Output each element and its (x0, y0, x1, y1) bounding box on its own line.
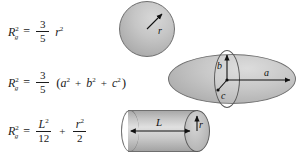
exponent-2: 2 (66, 76, 70, 84)
fraction-denominator: 12 (36, 132, 51, 144)
fraction-L-squared-over-12: L2 12 (36, 118, 51, 144)
exponent-2: 2 (117, 76, 121, 84)
term-c-squared: c2 (112, 77, 121, 89)
fraction-denominator: 2 (75, 132, 85, 144)
exponent-2: 2 (15, 25, 19, 33)
exponent-2: 2 (45, 117, 49, 125)
fraction-three-fifths: 3 5 (36, 19, 49, 44)
exponent-2: 2 (80, 117, 84, 125)
cylinder-dimension-annotation (120, 108, 212, 154)
formula-ellipsoid: R2g = 3 5 ( a2 + b2 + c2 ) (8, 70, 126, 95)
exponent-2: 2 (15, 76, 19, 84)
cylinder-label-r: r (199, 120, 203, 130)
ellipsoid-axes-annotation (168, 50, 298, 108)
plus-sign: + (59, 125, 65, 137)
ellipsoid-label-c: c (221, 91, 225, 101)
formula-cylinder: R2g = L2 12 + r2 2 (8, 118, 89, 144)
equals-sign: = (23, 124, 30, 139)
term-r-squared: r2 (55, 26, 63, 38)
equals-sign: = (23, 24, 30, 39)
fraction-three-fifths: 3 5 (36, 70, 49, 95)
sphere-label-r: r (158, 26, 162, 36)
symbol-R: R2g (8, 26, 22, 38)
fraction-numerator: 3 (38, 70, 48, 82)
subscript-g: g (15, 132, 19, 140)
cylinder-label-L: L (156, 117, 162, 128)
shape-cylinder: L r (120, 108, 212, 154)
fraction-r-squared-over-2: r2 2 (73, 118, 86, 144)
fraction-numerator: L2 (37, 118, 51, 131)
diagram-canvas: R2g = 3 5 r2 r R2g = 3 5 ( a2 (0, 0, 299, 156)
shape-ellipsoid: b a c (168, 50, 298, 108)
term-b-squared: b2 (86, 77, 96, 89)
symbol-R: R2g (8, 77, 22, 89)
plus-sign: + (101, 77, 107, 89)
exponent-2: 2 (60, 25, 64, 33)
paren-close: ) (122, 75, 126, 91)
subscript-g: g (15, 33, 19, 41)
exponent-2: 2 (15, 124, 19, 132)
exponent-2: 2 (92, 76, 96, 84)
plus-sign: + (75, 77, 81, 89)
fraction-denominator: 5 (38, 83, 48, 95)
subscript-g: g (15, 84, 19, 92)
fraction-denominator: 5 (38, 32, 48, 44)
fraction-numerator: r2 (74, 118, 86, 131)
ellipsoid-label-a: a (264, 68, 269, 78)
formula-sphere: R2g = 3 5 r2 (8, 19, 63, 44)
equals-sign: = (23, 75, 30, 90)
fraction-numerator: 3 (38, 19, 48, 31)
symbol-R: R2g (8, 125, 22, 137)
term-a-squared: a2 (60, 77, 70, 89)
ellipsoid-label-b: b (217, 61, 222, 71)
